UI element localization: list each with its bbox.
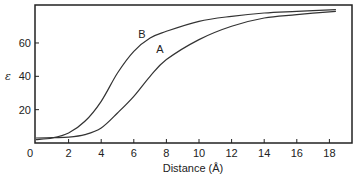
y-axis-ticks: 204060 [19,37,39,116]
curves: BA [36,10,336,140]
x-axis-label: Distance (Å) [163,162,224,174]
curve-b [36,10,336,140]
epsilon-distance-chart: 024681012141618 204060 BA Distance (Å) ε [0,0,357,180]
y-tick-label: 60 [19,37,31,49]
curve-label-b: B [138,28,145,40]
x-tick-label: 0 [27,147,33,159]
x-tick-label: 10 [193,147,205,159]
x-tick-label: 18 [323,147,335,159]
plot-frame [35,5,352,143]
x-tick-label: 16 [291,147,303,159]
y-tick-label: 20 [19,104,31,116]
x-tick-label: 4 [98,147,104,159]
x-tick-label: 8 [163,147,169,159]
x-tick-label: 14 [258,147,270,159]
curve-label-a: A [156,43,164,55]
x-tick-label: 6 [131,147,137,159]
x-tick-label: 2 [66,147,72,159]
x-tick-label: 12 [225,147,237,159]
y-tick-label: 40 [19,70,31,82]
curve-a [36,11,336,138]
x-axis-ticks: 024681012141618 [27,139,336,159]
y-axis-label: ε [5,70,11,83]
